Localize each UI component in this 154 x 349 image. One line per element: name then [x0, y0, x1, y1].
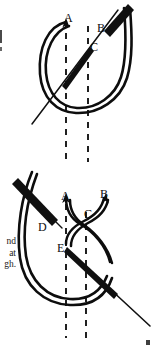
margin-text-block: nd at gh. [0, 236, 16, 271]
stitch-diagram-bottom-canvas [0, 166, 154, 349]
label-e-bottom: E [57, 242, 64, 254]
edge-speck-top-left [0, 30, 2, 43]
needle-eye-end [104, 4, 134, 37]
margin-text-line-2: at [0, 248, 16, 260]
margin-text-line-1: nd [0, 236, 16, 248]
needle-e [64, 247, 150, 326]
stitch-diagram-top: A A B C [0, 0, 154, 175]
label-c-bottom: C [84, 208, 92, 220]
label-a-top: A [64, 12, 73, 24]
label-b-bottom: B [100, 188, 108, 200]
fabric-guide-lines [66, 21, 88, 162]
edge-speck-bottom-right [146, 340, 150, 345]
label-b-top: B [97, 22, 105, 34]
label-c-top: C [90, 41, 98, 53]
margin-text-line-3: gh. [0, 259, 16, 271]
edge-speck-top-left-secondary [0, 47, 2, 51]
scanned-page: A A B C [0, 0, 154, 349]
needle-top [32, 4, 134, 124]
label-d-bottom: D [38, 221, 47, 233]
stitch-diagram-top-canvas: A [0, 0, 154, 175]
stitch-diagram-bottom: A B C D E [0, 166, 154, 349]
label-a-bottom: A [61, 190, 70, 202]
